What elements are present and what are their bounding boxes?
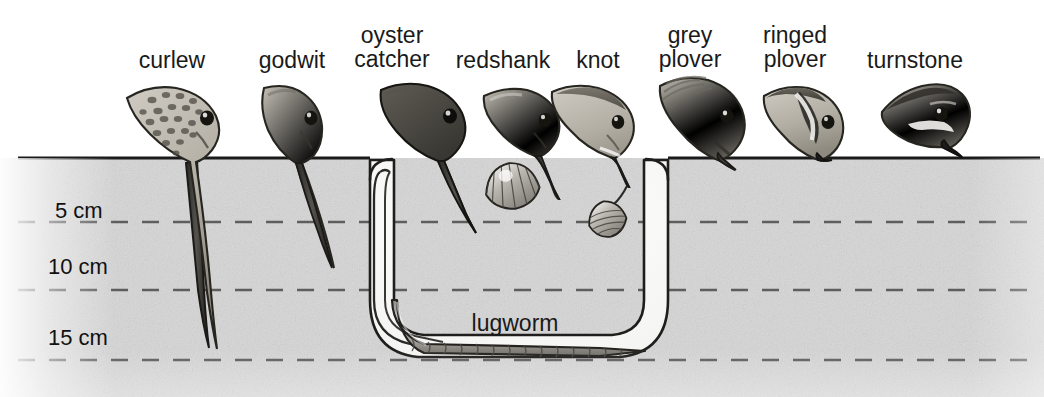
greyplover-eye bbox=[720, 109, 734, 123]
bird-label-redshank: redshank bbox=[456, 48, 551, 72]
turnstone-eye bbox=[934, 107, 948, 121]
bird-turnstone bbox=[882, 84, 970, 158]
redshank-eye bbox=[539, 113, 552, 127]
wader-feeding-depth-diagram: curlew godwit oyster catcher redshank kn… bbox=[0, 0, 1044, 397]
depth-label-5cm: 5 cm bbox=[55, 198, 103, 224]
greyplover-head bbox=[660, 78, 745, 170]
depth-label-15cm: 15 cm bbox=[48, 325, 108, 351]
bird-greyplover bbox=[660, 77, 745, 170]
bird-label-greyplover: grey plover bbox=[659, 23, 722, 72]
bird-label-ringedplover: ringed plover bbox=[763, 23, 827, 72]
knot-eye bbox=[612, 115, 625, 129]
prey-label-lugworm: lugworm bbox=[472, 310, 559, 337]
curlew-eye bbox=[200, 110, 214, 125]
sediment-edge-fade bbox=[0, 158, 1044, 397]
godwit-eye bbox=[304, 111, 317, 125]
depth-label-10cm: 10 cm bbox=[48, 254, 108, 280]
bird-label-godwit: godwit bbox=[259, 48, 325, 72]
bird-label-curlew: curlew bbox=[139, 48, 205, 72]
bird-label-turnstone: turnstone bbox=[867, 48, 963, 72]
bird-ringedplover bbox=[764, 87, 843, 161]
bird-label-oystercatcher: oyster catcher bbox=[354, 23, 429, 72]
bird-label-knot: knot bbox=[576, 48, 619, 72]
oystercatcher-eye bbox=[443, 109, 457, 124]
ringedplover-eye bbox=[822, 115, 835, 129]
